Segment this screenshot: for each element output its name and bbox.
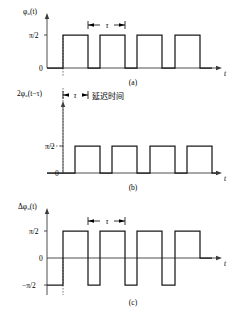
panel-a-x-axis-label: t [224, 69, 227, 78]
panel-c-x-axis-label: t [224, 259, 227, 268]
panel-c: Δφ₀(t) π/2 0 −π/2 t (c) τ [18, 202, 227, 307]
panel-b-tau-arrow-left [63, 93, 69, 97]
panel-c-ytick-zero: 0 [39, 254, 43, 263]
panel-a-tau-arrow-left [88, 23, 94, 27]
panel-c-y-axis-label: Δφ₀(t) [18, 202, 37, 211]
panel-a-y-axis-label: φ₀(t) [23, 7, 38, 16]
panel-b-x-arrow [216, 171, 222, 175]
panel-b-caption: (b) [129, 183, 138, 192]
panel-b-tau-arrow-right [82, 93, 88, 97]
panel-b-y-axis-label: 2φ₀(t−τ) [17, 89, 43, 98]
panel-c-x-arrow [216, 256, 222, 260]
panel-a-waveform [47, 35, 212, 68]
panel-a-y-arrow [45, 13, 49, 19]
panel-c-caption: (c) [129, 298, 138, 307]
panel-b-ytick-pi2: π/2 [45, 142, 55, 151]
panel-b-x-axis-label: t [224, 174, 227, 183]
panel-b: 2φ₀(t−τ) π/2 0 t (b) τ 延迟时间 [17, 88, 227, 192]
panel-a-caption: (a) [129, 78, 138, 87]
panel-c-ytick-pi2: π/2 [29, 227, 39, 236]
panel-a-ytick-pi2: π/2 [29, 31, 39, 40]
panel-a: φ₀(t) π/2 0 t (a) τ [23, 7, 227, 87]
panel-a-x-arrow [216, 66, 222, 70]
panel-c-tau-arrow-right [119, 219, 125, 223]
panel-b-tau-label: τ [74, 91, 77, 100]
panel-a-ytick-zero: 0 [39, 64, 43, 73]
panel-c-tau-arrow-left [88, 219, 94, 223]
panel-c-ytick-neg-pi2: −π/2 [22, 281, 36, 290]
panel-c-tau-label: τ [106, 217, 109, 226]
panel-b-waveform [47, 146, 216, 173]
panel-c-y-arrow [45, 208, 49, 214]
panel-b-delay-annotation: 延迟时间 [92, 91, 124, 101]
panel-a-tau-label: τ [106, 21, 109, 30]
waveform-figure: φ₀(t) π/2 0 t (a) τ 2φ₀(t−τ) π/2 0 t (b) [0, 0, 233, 309]
panel-a-tau-arrow-right [119, 23, 125, 27]
